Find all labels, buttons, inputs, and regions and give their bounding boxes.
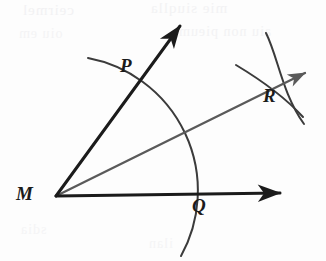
construction-drawing [0, 0, 326, 261]
point-label-r: R [263, 86, 276, 105]
lower-ray [56, 193, 280, 196]
point-label-q: Q [192, 196, 206, 215]
geometry-figure: ceirmel mie siuqlla oiu em aiu non pieum… [0, 0, 326, 261]
arc-from-p [266, 33, 304, 124]
upper-ray [56, 26, 180, 196]
main-arc [88, 58, 198, 256]
point-label-m: M [16, 184, 33, 203]
point-label-p: P [120, 56, 132, 75]
